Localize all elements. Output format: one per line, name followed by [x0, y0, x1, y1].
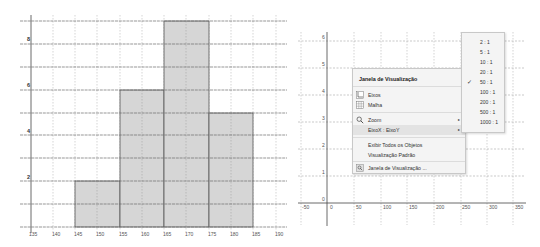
- histogram-canvas: 8 6 4 2 135 140 145 150 155 160 165 170 …: [0, 0, 290, 247]
- menu-item-graphics-settings[interactable]: Janela de Visualização ...: [353, 163, 465, 173]
- menu-item-label: Exibir Todos os Objetos: [368, 142, 422, 148]
- menu-separator: [353, 161, 465, 162]
- ratio-option[interactable]: 10 : 1: [462, 57, 504, 67]
- svg-text:180: 180: [230, 231, 239, 237]
- ratio-option[interactable]: 200 : 1: [462, 97, 504, 107]
- menu-separator: [353, 86, 465, 87]
- svg-text:350: 350: [515, 204, 524, 210]
- y-tick-label: 4: [27, 128, 31, 134]
- ratio-option[interactable]: 100 : 1: [462, 87, 504, 97]
- svg-text:150: 150: [409, 204, 418, 210]
- y-tick-labels: 0 1 2 3 4 5 6: [322, 34, 325, 202]
- x-tick-labels: -50 0 50 100 150 200 250 300 350: [302, 204, 524, 210]
- menu-separator: [353, 137, 465, 138]
- svg-text:190: 190: [275, 231, 284, 237]
- y-tick-label: 2: [27, 174, 30, 180]
- bar-165-175[interactable]: [164, 21, 209, 227]
- menu-item-label: Eixos: [368, 92, 381, 98]
- menu-item-label: Janela de Visualização ...: [368, 165, 427, 171]
- svg-text:140: 140: [52, 231, 61, 237]
- svg-text:100: 100: [383, 204, 392, 210]
- svg-text:150: 150: [96, 231, 105, 237]
- menu-item-xaxis-yaxis[interactable]: EixoX : EixoY ▸: [353, 125, 465, 135]
- svg-text:145: 145: [74, 231, 83, 237]
- x-tick-labels: 135 140 145 150 155 160 165 170 175 180 …: [29, 231, 284, 237]
- svg-text:2: 2: [322, 142, 325, 148]
- ratio-option-selected[interactable]: ✓ 50 : 1: [462, 77, 504, 87]
- submenu-arrow-icon: ▸: [458, 115, 460, 125]
- svg-text:165: 165: [163, 231, 172, 237]
- ratio-option[interactable]: 1000 : 1: [462, 117, 504, 127]
- menu-item-label: Zoom: [368, 117, 381, 123]
- menu-item-standard-view[interactable]: Visualização Padrão: [353, 150, 465, 160]
- check-icon: ✓: [467, 77, 472, 87]
- svg-text:160: 160: [141, 231, 150, 237]
- svg-text:-50: -50: [302, 204, 309, 210]
- menu-item-label: Malha: [368, 102, 382, 108]
- svg-text:185: 185: [252, 231, 261, 237]
- svg-text:175: 175: [208, 231, 217, 237]
- svg-text:250: 250: [462, 204, 471, 210]
- menu-item-axes[interactable]: Eixos: [353, 90, 465, 100]
- svg-text:300: 300: [489, 204, 498, 210]
- svg-text:50: 50: [356, 204, 362, 210]
- svg-text:1: 1: [322, 169, 325, 175]
- ratio-option[interactable]: 20 : 1: [462, 67, 504, 77]
- svg-text:0: 0: [330, 204, 333, 210]
- menu-item-label: EixoX : EixoY: [368, 127, 399, 133]
- histogram-graphics-view[interactable]: 8 6 4 2 135 140 145 150 155 160 165 170 …: [0, 0, 290, 247]
- submenu-arrow-icon: ▸: [458, 125, 460, 135]
- menu-item-label: Visualização Padrão: [368, 152, 415, 158]
- graphics-view-context-menu: Janela de Visualização Eixos Malha Zoom …: [352, 68, 466, 174]
- svg-text:4: 4: [322, 88, 325, 94]
- svg-text:155: 155: [119, 231, 128, 237]
- svg-text:200: 200: [436, 204, 445, 210]
- context-menu-title: Janela de Visualização: [359, 76, 417, 82]
- svg-text:170: 170: [185, 231, 194, 237]
- svg-text:5: 5: [322, 61, 325, 67]
- y-tick-label: 6: [27, 82, 30, 88]
- svg-text:6: 6: [322, 34, 325, 40]
- svg-text:135: 135: [29, 231, 38, 237]
- axis-ratio-submenu: 2 : 1 5 : 1 10 : 1 20 : 1 ✓ 50 : 1 100 :…: [461, 32, 505, 133]
- menu-item-zoom[interactable]: Zoom ▸: [353, 115, 465, 125]
- svg-text:3: 3: [322, 115, 325, 121]
- ratio-option[interactable]: 500 : 1: [462, 107, 504, 117]
- menu-separator: [353, 112, 465, 113]
- zoom-icon: [356, 116, 364, 124]
- y-tick-label: 8: [27, 36, 30, 42]
- menu-item-show-all-objects[interactable]: Exibir Todos os Objetos: [353, 140, 465, 150]
- window-settings-icon: [356, 164, 364, 172]
- menu-item-grid[interactable]: Malha: [353, 100, 465, 110]
- axes-icon: [356, 91, 364, 99]
- svg-text:0: 0: [322, 196, 325, 202]
- ratio-option[interactable]: 5 : 1: [462, 47, 504, 57]
- histogram-bars: [75, 21, 253, 227]
- grid-icon: [356, 101, 364, 109]
- ratio-option[interactable]: 2 : 1: [462, 37, 504, 47]
- bar-155-165[interactable]: [120, 90, 164, 227]
